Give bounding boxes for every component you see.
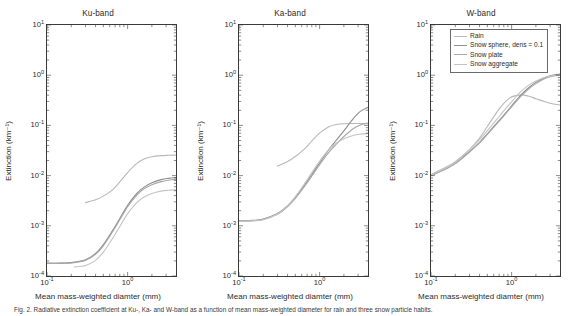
- x-axis-label-w: Mean mass-weighted diamter (mm): [384, 292, 578, 301]
- plot-area-ka: 10110010-110-210-310-410-1100: [238, 24, 369, 277]
- x-axis-label-ku: Mean mass-weighted diamter (mm): [0, 292, 196, 301]
- y-axis-label-text-ku: Extinction (km⁻¹): [4, 121, 13, 181]
- y-tick-label: 100: [224, 71, 236, 79]
- legend-swatch-line: [454, 45, 467, 46]
- legend-item: Snow plate: [454, 50, 543, 59]
- y-tick-label: 10-3: [223, 222, 236, 230]
- y-axis-label-ka: Extinction (km⁻¹): [194, 24, 206, 277]
- y-tick-label: 10-3: [415, 222, 428, 230]
- series-line: [431, 75, 560, 176]
- x-tick-label: 100: [314, 279, 326, 287]
- series-line: [239, 107, 368, 221]
- x-tick-label: 100: [506, 279, 518, 287]
- panel-title-ka: Ka-band: [192, 9, 388, 18]
- curves-ka: [239, 25, 368, 276]
- legend-label: Snow plate: [470, 52, 503, 59]
- legend-label: Rain: [470, 33, 484, 40]
- x-tick-label: 10-1: [40, 279, 53, 287]
- y-tick-label: 10-1: [223, 122, 236, 130]
- legend-swatch-line: [454, 64, 467, 65]
- legend-item: Snow aggregate: [454, 60, 543, 69]
- y-tick-label: 10-2: [223, 172, 236, 180]
- y-tick-label: 101: [416, 21, 428, 29]
- y-axis-label-ku: Extinction (km⁻¹): [2, 24, 14, 277]
- figure-root: Ku-band Extinction (km⁻¹) 10110010-110-2…: [0, 0, 578, 316]
- legend-label: Snow sphere, dens = 0.1: [470, 42, 543, 49]
- y-tick-label: 10-1: [415, 122, 428, 130]
- curves-ku: [47, 25, 176, 276]
- y-tick-label: 10-2: [31, 172, 44, 180]
- y-tick-label: 100: [32, 71, 44, 79]
- y-axis-label-w: Extinction (km⁻¹): [386, 24, 398, 277]
- legend-swatch-line: [454, 54, 467, 55]
- series-line: [239, 133, 368, 221]
- legend-item: Rain: [454, 32, 543, 41]
- legend-label: Snow aggregate: [470, 61, 518, 68]
- legend: RainSnow sphere, dens = 0.1Snow plateSno…: [450, 29, 548, 73]
- x-axis-label-ka: Mean mass-weighted diamter (mm): [192, 292, 388, 301]
- panel-ka-band: Ka-band Extinction (km⁻¹) 10110010-110-2…: [192, 0, 388, 316]
- panel-ku-band: Ku-band Extinction (km⁻¹) 10110010-110-2…: [0, 0, 196, 316]
- y-tick-label: 101: [224, 21, 236, 29]
- y-tick-label: 100: [416, 71, 428, 79]
- y-axis-label-text-w: Extinction (km⁻¹): [388, 121, 397, 181]
- figure-caption: Fig. 2. Radiative extinction coefficient…: [14, 306, 566, 316]
- x-tick-label: 10-1: [232, 279, 245, 287]
- x-tick-label: 10-1: [424, 279, 437, 287]
- legend-item: Snow sphere, dens = 0.1: [454, 41, 543, 50]
- legend-swatch-line: [454, 36, 467, 37]
- y-tick-label: 10-2: [415, 172, 428, 180]
- panel-title-w: W-band: [384, 9, 578, 18]
- x-tick-label: 100: [122, 279, 134, 287]
- panel-w-band: W-band Extinction (km⁻¹) 10110010-110-21…: [384, 0, 578, 316]
- plot-area-ku: 10110010-110-210-310-410-1100: [46, 24, 177, 277]
- y-tick-label: 10-3: [31, 222, 44, 230]
- y-axis-label-text-ka: Extinction (km⁻¹): [196, 121, 205, 181]
- series-line: [431, 95, 560, 175]
- panel-title-ku: Ku-band: [0, 9, 196, 18]
- y-tick-label: 101: [32, 21, 44, 29]
- series-line: [239, 123, 368, 221]
- y-tick-label: 10-1: [31, 122, 44, 130]
